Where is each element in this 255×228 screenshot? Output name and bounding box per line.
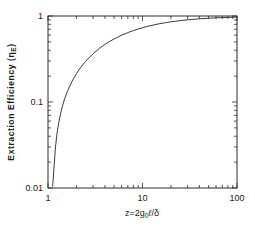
x-axis-title-z: z=2g	[125, 208, 145, 218]
svg-text:z=2g0ℓ/δ: z=2g0ℓ/δ	[125, 208, 159, 219]
plot-background	[0, 0, 255, 228]
x-axis-title: z=2g0ℓ/δ	[125, 208, 159, 219]
y-axis-title-paren-close: )	[6, 43, 16, 46]
extraction-efficiency-log-log-plot: 110100 0.010.11 Extraction Efficiency (η…	[0, 0, 255, 228]
y-axis-title-text: Extraction Efficiency	[6, 64, 16, 161]
svg-text:Extraction Efficiency (ηE): Extraction Efficiency (ηE)	[6, 43, 17, 160]
y-axis-title: Extraction Efficiency (ηE)	[6, 43, 17, 160]
x-axis-title-delta: /δ	[151, 208, 159, 218]
x-tick-label: 10	[137, 193, 147, 203]
x-tick-label: 1	[45, 193, 50, 203]
x-tick-label: 100	[229, 193, 244, 203]
chart-figure: 110100 0.010.11 Extraction Efficiency (η…	[0, 0, 255, 228]
y-tick-label: 1	[38, 11, 43, 21]
y-tick-label: 0.01	[25, 183, 43, 193]
y-tick-label: 0.1	[30, 97, 43, 107]
